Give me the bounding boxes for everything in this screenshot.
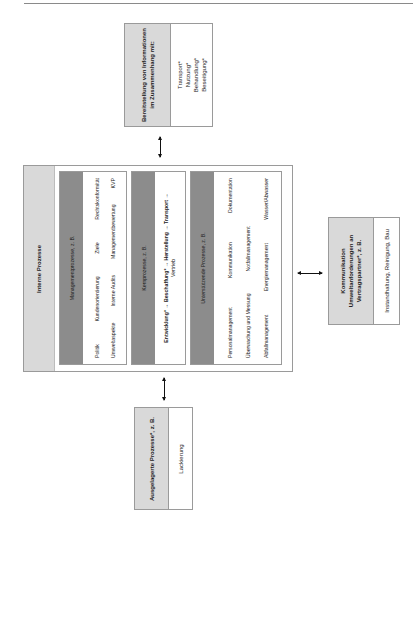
management-row: Politik Kundenorientierung Ziele Rechtsk… [93,178,100,358]
info-item: Transport* [176,58,184,92]
info-item: Nutzung* [184,58,192,92]
core-processes: Kernprozesse, z. B. Entwicklung* → Besch… [131,171,186,365]
core-process-chain-end: Vertrieb [170,193,177,342]
info-item: Beseitigung* [200,58,208,92]
info-box: Bereitstellung von Informationen im Zusa… [124,23,213,127]
support-row: Personalmanagement Kommunikation Dokumen… [226,178,233,358]
core-header: Kernprozesse, z. B. [132,172,155,364]
internal-processes-title: Interne Prozesse [35,244,43,292]
top-rule [24,3,413,4]
outsourced-header: Ausgelagerte Prozesse*, z. B. [135,408,169,509]
internal-processes-box: Interne Prozesse Managementprozesse, z. … [23,165,293,372]
management-header: Managementprozesse, z. B. [60,172,83,364]
info-box-header-line: im Zusammenhang mit: [148,28,156,122]
info-item: Behandlung* [192,58,200,92]
info-box-content: Transport* Nutzung* Behandlung* Beseitig… [171,24,212,126]
communication-box: Kommunikation Umweltanforderungen an Ver… [328,217,400,325]
outsourced-content: Lackierung [169,408,192,509]
communication-content: Instandhaltung, Reinigung, Bau [374,218,399,324]
info-box-header-line: Bereitstellung von Informationen [140,28,148,122]
support-processes: Unterstützende Prozesse, z. B. Personalm… [190,171,282,365]
communication-header: Kommunikation Umweltanforderungen an Ver… [329,218,374,324]
double-arrow-icon [164,378,165,400]
double-arrow-icon [160,137,161,157]
internal-processes-header: Interne Prozesse [24,166,55,371]
support-row: Abfallmanagement Energiemanagement Wasse… [262,178,269,358]
core-process-chain: Entwicklung* → Beschaffung* → Herstellun… [163,193,170,342]
info-box-header: Bereitstellung von Informationen im Zusa… [125,24,171,126]
outsourced-box: Ausgelagerte Prozesse*, z. B. Lackierung [134,407,193,510]
support-header: Unterstützende Prozesse, z. B. [191,172,214,364]
double-arrow-icon [298,273,322,274]
support-row: Überwachung und Messung Notfallmanagemen… [244,178,251,358]
management-row: Umweltaspekte Interne Audits Managementb… [109,178,116,358]
management-processes: Managementprozesse, z. B. Politik Kunden… [59,171,127,365]
